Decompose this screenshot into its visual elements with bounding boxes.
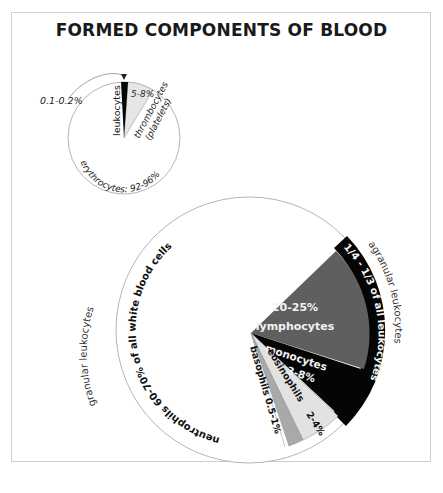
- granular-leukocytes-label: granular leukocytes: [78, 305, 98, 408]
- thrombocytes-pct: 5-8%: [131, 89, 154, 99]
- large-pie: 20-25% lymphocytes monocytes 3-8% eosino…: [78, 197, 405, 463]
- arrow-head-icon: [121, 74, 127, 80]
- blood-components-diagram: 0.1-0.2% leukocytes 5-8% thrombocytes (p…: [0, 0, 443, 493]
- lymphocytes-label: lymphocytes: [256, 320, 335, 333]
- leukocytes-label: leukocytes: [111, 85, 122, 136]
- lymphocytes-pct: 20-25%: [272, 301, 318, 314]
- leukocytes-pct: 0.1-0.2%: [40, 95, 83, 106]
- small-pie: 0.1-0.2% leukocytes 5-8% thrombocytes (p…: [0, 0, 180, 194]
